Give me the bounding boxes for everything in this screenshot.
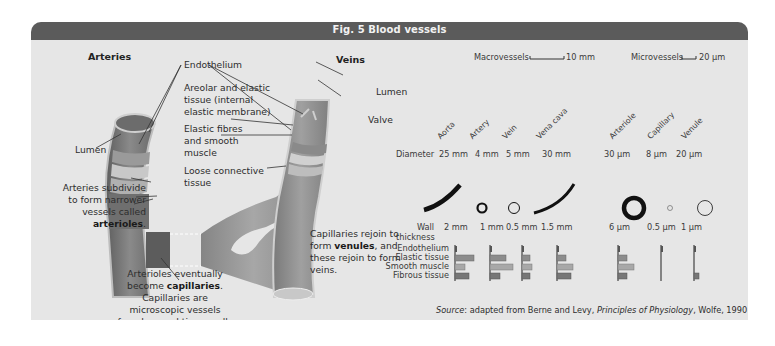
label-areolar-3: elastic membrane) (184, 106, 271, 118)
macro-scale-value: 10 mm (566, 52, 595, 62)
veins-heading: Veins (336, 54, 365, 65)
label-elastic-3: muscle (184, 147, 217, 159)
label-valve: Valve (368, 114, 393, 126)
bars-vein (522, 245, 532, 281)
artery-circle (478, 204, 487, 213)
wall-vena-cava: 1.5 mm (541, 222, 573, 232)
note-arterioles: Arterioles eventually become capillaries… (115, 268, 235, 320)
diameter-arteriole: 30 µm (604, 149, 630, 159)
composition-bars (455, 245, 699, 281)
label-loose-2: tissue (184, 177, 211, 189)
diameter-artery: 4 mm (475, 149, 499, 159)
wall-label-1: Wall (417, 222, 434, 232)
label-lumen-right: Lumen (376, 86, 407, 98)
bars-arteriole (618, 245, 634, 281)
wall-arteriole: 6 µm (609, 222, 630, 232)
diameter-label: Diameter (396, 149, 434, 159)
note-arteries: Arteries subdivide to form narrower vess… (41, 182, 146, 230)
wall-label-2: thickness (396, 232, 435, 242)
vessel-cross-sections (424, 184, 713, 218)
label-loose-1: Loose connective (184, 165, 264, 177)
label-lumen-left: Lumen (75, 144, 106, 156)
diameter-aorta: 25 mm (439, 149, 468, 159)
venule-circle (698, 201, 713, 216)
diameter-vena-cava: 30 mm (542, 149, 571, 159)
wall-venule: 1 µm (681, 222, 702, 232)
vein-circle (509, 203, 520, 214)
label-endothelium: Endothelium (184, 59, 242, 71)
wall-artery: 1 mm (480, 222, 504, 232)
aorta-arc (424, 185, 460, 210)
wall-capillary: 0.5 µm (647, 222, 676, 232)
label-elastic-1: Elastic fibres (184, 123, 243, 135)
arteriole-circle (624, 198, 644, 218)
macro-scale-label: Macrovessels (474, 52, 529, 62)
bars-vena-cava (557, 245, 573, 281)
micro-scale-label: Microvessels (631, 52, 683, 62)
wall-aorta: 2 mm (444, 222, 468, 232)
diameter-capillary: 8 µm (646, 149, 667, 159)
source-citation: Source: adapted from Berne and Levy, Pri… (436, 305, 747, 315)
figure-panel: Fig. 5 Blood vessels (31, 22, 748, 320)
label-areolar-2: tissue (internal (184, 94, 253, 106)
arteries-heading: Arteries (88, 51, 131, 62)
micro-scale-value: 20 µm (699, 52, 725, 62)
bars-venule (694, 245, 699, 281)
bars-artery (490, 245, 513, 281)
bars-capillary (661, 245, 663, 281)
tissue-label-fibrous: Fibrous tissue (381, 270, 449, 280)
diameter-venule: 20 µm (676, 149, 702, 159)
capillary-circle (668, 206, 673, 211)
bars-aorta (455, 245, 474, 281)
label-elastic-2: and smooth (184, 135, 239, 147)
wall-vein: 0.5 mm (506, 222, 538, 232)
label-areolar-1: Areolar and elastic (184, 82, 270, 94)
diameter-vein: 5 mm (506, 149, 530, 159)
vena-cava-arc (534, 184, 574, 213)
